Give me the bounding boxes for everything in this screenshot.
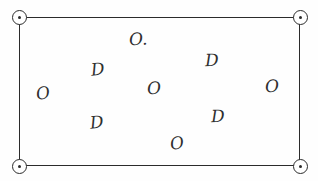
- annotation-glyph: O: [169, 134, 185, 153]
- sketch-page: O.DDOOODDO: [0, 0, 318, 181]
- annotation-glyph: D: [211, 108, 225, 125]
- corner-marker-bottom-right: [293, 159, 308, 174]
- annotation-glyph: D: [205, 52, 219, 69]
- annotation-glyph: O: [265, 78, 280, 95]
- annotation-glyph: O.: [129, 31, 148, 49]
- annotation-glyph: O: [147, 80, 162, 97]
- corner-marker-bottom-left: [12, 159, 27, 174]
- scan-edge-text-remnant: [0, 0, 318, 5]
- corner-marker-top-right: [293, 10, 308, 25]
- annotation-glyph: D: [90, 60, 105, 78]
- annotation-glyph: O: [35, 84, 51, 103]
- annotation-glyph: D: [89, 113, 104, 131]
- corner-marker-top-left: [12, 10, 27, 25]
